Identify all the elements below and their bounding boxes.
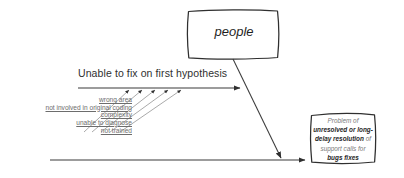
effect-box-text: Problem of unresolved or long- delay res…: [312, 116, 374, 162]
effect-line-2: unresolved or long-: [313, 126, 373, 133]
cause-label-unable-to-diagnose: unable to diagnose: [2, 119, 132, 126]
cause-label-not-involved-in-original-coding: not involved in original coding: [2, 104, 132, 111]
cause-label-not-trained: not trained: [2, 127, 132, 134]
effect-line-4: support calls for: [320, 145, 365, 152]
effect-line-1: Problem of: [328, 117, 359, 124]
category-box-label: people: [193, 24, 275, 39]
branch-heading-label: Unable to fix on first hypothesis: [78, 67, 227, 79]
effect-line-3-plain: of: [366, 135, 371, 142]
cause-label-complexity: complexity: [2, 111, 132, 118]
category-rib-line: [233, 59, 281, 158]
cause-label-wrong-area: wrong area: [2, 96, 132, 103]
effect-line-5: bugs fixes: [327, 154, 359, 161]
effect-line-3-bold: delay resolution: [315, 135, 364, 142]
fishbone-diagram-canvas: people Unable to fix on first hypothesis…: [0, 0, 404, 178]
